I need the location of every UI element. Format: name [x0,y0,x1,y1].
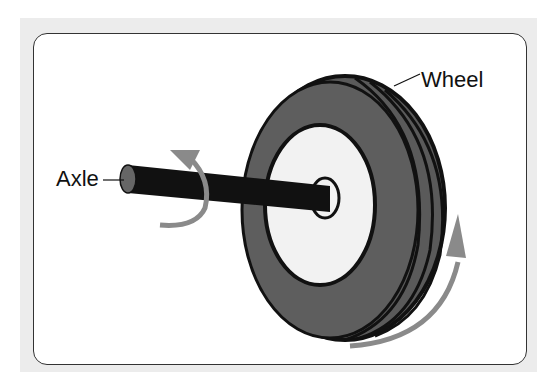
wheel-axle-diagram [0,0,557,390]
axle-end-cap [120,165,136,193]
axle-label: Axle [56,168,99,190]
wheel [242,76,445,340]
wheel-label: Wheel [421,69,483,91]
wheel-leader-line [394,74,420,86]
